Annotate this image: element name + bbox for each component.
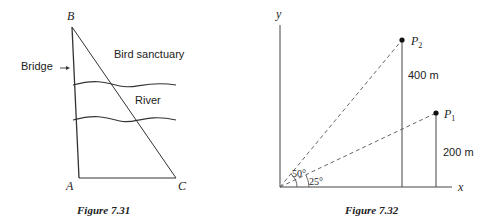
bird-sanctuary-label: Bird sanctuary [114,48,185,60]
sight-line-p2 [280,40,402,187]
angle-p2-label: 50° [292,168,306,179]
point-c-label: C [178,179,187,193]
height-p2-label: 400 m [408,69,439,81]
point-b-label: B [67,9,75,23]
bridge-arrow-head [66,66,70,70]
y-axis-label: y [275,7,282,21]
figure-7-32-caption: Figure 7.32 [344,204,399,216]
point-p1-label: P1 [443,107,455,123]
point-a-label: A [65,179,74,193]
point-p2 [399,37,404,42]
bridge-label: Bridge [21,60,53,72]
river-label: River [135,94,161,106]
point-p2-label: P2 [410,34,422,50]
height-p1-label: 200 m [443,146,474,158]
river-bank-upper [73,82,176,87]
point-p1 [433,110,438,115]
figure-7-31: B A C Bridge Bird sanctuary River Figure… [21,9,187,216]
figure-7-31-caption: Figure 7.31 [76,204,130,216]
river-bank-lower [73,117,176,122]
side-ab [72,27,79,178]
angle-p1-label: 25° [309,176,323,187]
figure-7-32: y x P2 P1 400 m 200 m 50° 25° Figure 7.3… [275,7,474,216]
x-axis-label: x [457,180,464,194]
